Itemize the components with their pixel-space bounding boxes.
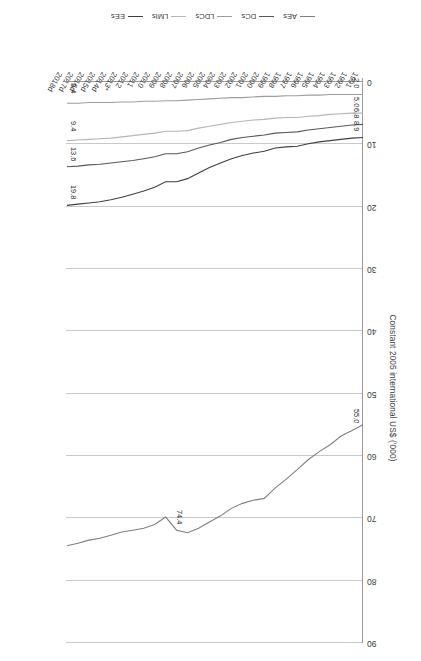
y-tick-label: 0 xyxy=(367,79,419,88)
legend-swatch-icon xyxy=(259,17,274,18)
point-label-3-4: 3.4 xyxy=(69,83,78,93)
legend-item-dcs[interactable]: DCs xyxy=(241,13,274,22)
legend-swatch-icon xyxy=(300,17,315,18)
series-lines xyxy=(67,82,363,643)
y-tick-label: 30 xyxy=(367,266,419,275)
legend-label: AEs xyxy=(283,13,297,22)
y-tick-label: 40 xyxy=(367,328,419,337)
legend-label: LDCs xyxy=(195,13,214,22)
chart-legend: AEsDCsLDCsLMIsEEs xyxy=(63,9,363,25)
point-label-13-6: 13.6 xyxy=(69,147,78,161)
y-tick-label: 70 xyxy=(367,515,419,524)
y-tick-label: 60 xyxy=(367,453,419,462)
legend-item-ees[interactable]: EEs xyxy=(111,13,143,22)
point-label-5-0: 5.0 xyxy=(352,97,361,107)
point-label-74-4: 74.4 xyxy=(175,510,184,524)
point-label-6-8: 6.8 xyxy=(352,108,361,118)
rotated-figure-container: Constant 2005 international US$ ('000) 0… xyxy=(0,0,421,661)
point-label-9-4: 9.4 xyxy=(69,121,78,131)
legend-label: LMIs xyxy=(152,13,168,22)
series-line-dcs xyxy=(67,124,363,166)
point-label-8-9: 8.9 xyxy=(352,121,361,131)
legend-item-lmis[interactable]: LMIs xyxy=(152,13,186,22)
series-line-ees xyxy=(67,137,363,205)
y-tick-label: 20 xyxy=(367,203,419,212)
legend-item-ldcs[interactable]: LDCs xyxy=(195,13,232,22)
series-line-aes xyxy=(67,425,363,546)
legend-swatch-icon xyxy=(128,17,143,18)
point-label-19-8: 19.8 xyxy=(69,185,78,199)
series-line-lmis xyxy=(67,113,363,140)
y-tick-label: 10 xyxy=(367,141,419,150)
series-line-ldcs xyxy=(67,94,363,103)
y-tick-label: 50 xyxy=(367,390,419,399)
y-tick-label: 90 xyxy=(367,640,419,649)
y-axis-tick-labels: 0102030405060708090 xyxy=(367,82,421,643)
legend-label: EEs xyxy=(111,13,125,22)
legend-swatch-icon xyxy=(171,17,186,18)
legend-item-aes[interactable]: AEs xyxy=(283,13,315,22)
point-label-55-0: 55.0 xyxy=(352,409,361,423)
line-chart-figure: Constant 2005 international US$ ('000) 0… xyxy=(0,0,421,661)
y-tick-label: 80 xyxy=(367,577,419,586)
legend-label: DCs xyxy=(241,13,256,22)
legend-swatch-icon xyxy=(217,17,232,18)
point-label-2-0: 2.0 xyxy=(352,78,361,88)
